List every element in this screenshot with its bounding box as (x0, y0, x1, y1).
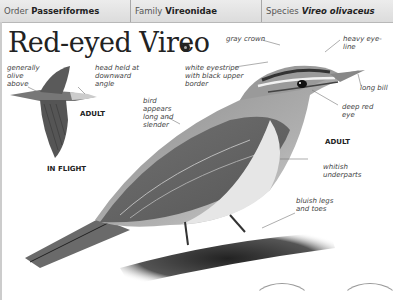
label-bird-long-slender: bird appears long and slender (143, 97, 185, 129)
in-flight-caption: IN FLIGHT (47, 165, 86, 173)
bird-illustration (0, 0, 393, 300)
label-gray-crown: gray crown (226, 35, 265, 43)
label-whitish-underparts: whitish underparts (323, 163, 365, 179)
flight-adult-caption: ADULT (80, 110, 105, 118)
label-heavy-eye-line: heavy eye-line (343, 35, 393, 51)
label-bluish-legs: bluish legs and toes (296, 197, 346, 213)
label-generally-olive: generally olive above (7, 64, 47, 88)
label-head-held: head held at downward angle (95, 64, 150, 88)
main-adult-caption: ADULT (325, 138, 350, 146)
label-long-bill: long bill (360, 84, 388, 92)
left-border (0, 22, 2, 300)
label-white-eyestripe: white eyestripe with black upper border (185, 64, 251, 88)
branch (120, 232, 335, 285)
label-deep-red-eye: deep red eye (342, 103, 377, 119)
